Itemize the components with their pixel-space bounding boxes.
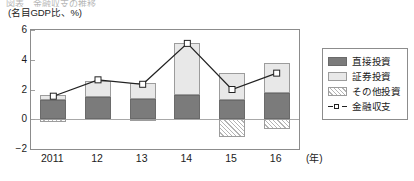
y-axis-unit-label: (名目GDP比、%) — [8, 7, 82, 19]
legend-item-financial-account: 金融収支 — [328, 99, 403, 114]
legend-label-other-investment: その他投資 — [352, 86, 401, 97]
y-tick-label: 0 — [1, 114, 27, 124]
legend-swatch-financial-account — [328, 102, 347, 111]
legend-line-segment-left — [328, 106, 333, 107]
legend-swatch-other-investment — [328, 87, 347, 96]
line-marker — [184, 40, 190, 46]
line-path — [53, 43, 276, 96]
y-tick-label: 2 — [1, 85, 27, 95]
line-marker — [50, 93, 56, 99]
chart-figure: 図表 金融収支の推移 (名目GDP比、%) 6420−2 直接投資 証券投資 そ… — [0, 0, 414, 181]
x-tick-label: 2011 — [29, 153, 75, 164]
legend-label-direct-investment: 直接投資 — [352, 56, 391, 67]
x-tick-label: 14 — [163, 153, 209, 164]
legend-swatch-portfolio-investment — [328, 72, 347, 81]
line-marker — [274, 70, 280, 76]
y-tick-label: 4 — [1, 55, 27, 65]
legend-item-direct-investment: 直接投資 — [328, 54, 403, 69]
x-tick-label: 13 — [119, 153, 165, 164]
plot-area: 6420−2 — [30, 29, 300, 150]
legend-square-marker-icon — [334, 104, 339, 109]
line-marker — [229, 87, 235, 93]
x-tick-label: 15 — [208, 153, 254, 164]
x-axis-unit-label: (年) — [306, 153, 323, 164]
x-tick-label: 16 — [253, 153, 299, 164]
x-tick-label: 12 — [74, 153, 120, 164]
legend-swatch-direct-investment — [328, 57, 347, 66]
plot-inner — [31, 30, 299, 149]
clipped-title-strip: 図表 金融収支の推移 — [6, 0, 176, 7]
financial-account-line-series — [31, 30, 299, 149]
legend-item-other-investment: その他投資 — [328, 84, 403, 99]
chart-legend: 直接投資 証券投資 その他投資 金融収支 — [322, 48, 408, 120]
legend-item-portfolio-investment: 証券投資 — [328, 69, 403, 84]
legend-line-segment-right — [342, 106, 347, 107]
line-marker — [140, 81, 146, 87]
legend-label-portfolio-investment: 証券投資 — [352, 71, 391, 82]
y-tick-label: −2 — [1, 144, 27, 154]
legend-label-financial-account: 金融収支 — [352, 101, 391, 112]
line-marker — [95, 77, 101, 83]
y-tick-label: 6 — [1, 25, 27, 35]
